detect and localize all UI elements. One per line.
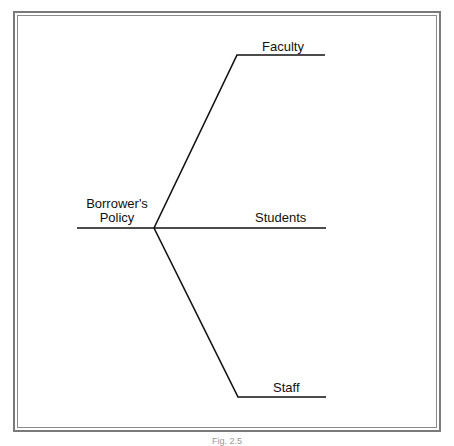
branch-label-faculty: Faculty (262, 40, 304, 54)
branch-faculty-line (154, 55, 325, 228)
root-label: Borrower's Policy (80, 197, 154, 226)
root-label-line2: Policy (80, 211, 154, 225)
branch-label-students: Students (255, 211, 306, 225)
figure-caption: Fig. 2.5 (0, 436, 454, 446)
branch-label-staff: Staff (273, 381, 300, 395)
branch-staff-line (154, 228, 326, 397)
root-label-line1: Borrower's (80, 197, 154, 211)
